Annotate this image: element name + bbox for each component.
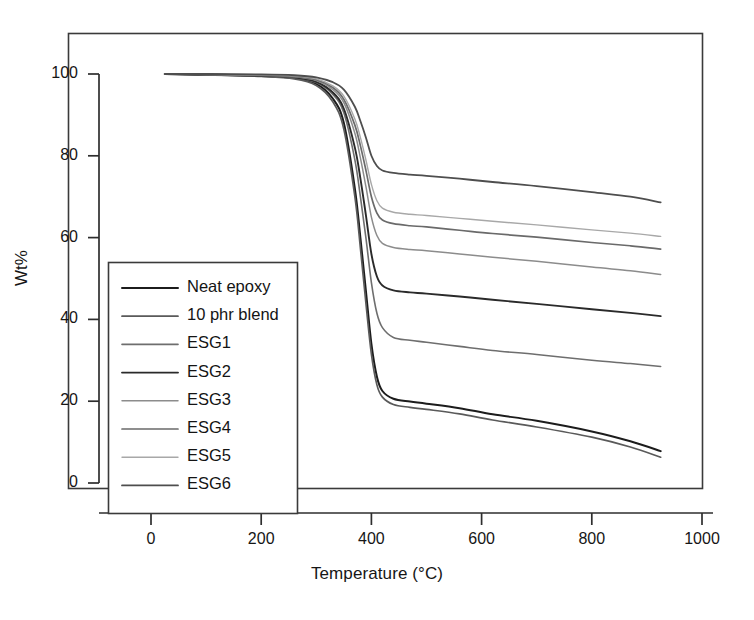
- y-tick-label: 100: [32, 64, 78, 82]
- y-axis-title: Wt%: [12, 222, 32, 314]
- x-tick-label: 0: [121, 530, 181, 548]
- legend-label-esg1: ESG1: [187, 333, 231, 352]
- x-tick-label: 400: [341, 530, 401, 548]
- legend-label-esg6: ESG6: [187, 474, 231, 493]
- legend-label-esg4: ESG4: [187, 418, 231, 437]
- x-tick-label: 1000: [672, 530, 732, 548]
- y-tick-label: 80: [32, 146, 78, 164]
- x-tick-label: 600: [452, 530, 512, 548]
- legend-label-esg5: ESG5: [187, 446, 231, 465]
- legend-label-esg2: ESG2: [187, 362, 231, 381]
- x-axis-title: Temperature (°C): [0, 564, 754, 584]
- x-tick-label: 800: [562, 530, 622, 548]
- x-tick-label: 200: [231, 530, 291, 548]
- y-tick-label: 60: [32, 228, 78, 246]
- chart-canvas: [0, 0, 754, 620]
- y-tick-label: 20: [32, 391, 78, 409]
- legend-label-esg3: ESG3: [187, 390, 231, 409]
- y-tick-label: 0: [32, 473, 78, 491]
- legend-label-neat-epoxy: Neat epoxy: [187, 277, 270, 296]
- tga-chart-figure: Temperature (°C) Wt% 02004006008001000 0…: [0, 0, 754, 620]
- legend-label-10-phr-blend: 10 phr blend: [187, 305, 279, 324]
- y-tick-label: 40: [32, 309, 78, 327]
